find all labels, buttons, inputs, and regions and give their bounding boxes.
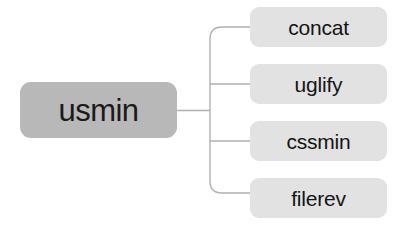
node-child-label: uglify [295, 74, 343, 95]
node-child-concat[interactable]: concat [250, 7, 387, 47]
node-child-label: filerev [291, 188, 346, 209]
node-child-label: cssmin [286, 131, 350, 152]
node-child-uglify[interactable]: uglify [250, 64, 387, 104]
connector-spine [210, 27, 250, 193]
node-child-filerev[interactable]: filerev [250, 178, 387, 218]
node-child-cssmin[interactable]: cssmin [250, 121, 387, 161]
node-root-label: usmin [58, 95, 138, 126]
node-child-label: concat [288, 17, 349, 38]
node-root[interactable]: usmin [20, 82, 177, 138]
tree-diagram: usmin concat uglify cssmin filerev [0, 0, 411, 225]
